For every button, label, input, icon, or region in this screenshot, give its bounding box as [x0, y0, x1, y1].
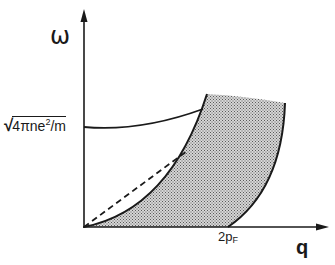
particle-hole-continuum-region: [84, 94, 285, 227]
y-axis-label: ω: [50, 24, 70, 48]
fermi-main: 2p: [218, 229, 232, 244]
plasma-frequency-label: √4πne2/m: [4, 117, 66, 134]
x-axis-label: q: [296, 237, 308, 257]
radicand-pre: 4πne: [12, 118, 45, 134]
y-axis-arrow-icon: [81, 9, 88, 22]
plasma-radicand: 4πne2/m: [12, 116, 66, 134]
fermi-sub: F: [232, 235, 238, 245]
fermi-momentum-label: 2pF: [218, 230, 238, 245]
radicand-post: /m: [50, 118, 66, 134]
x-axis-arrow-icon: [316, 224, 329, 231]
plasmon-dispersion-curve: [84, 109, 203, 128]
diagram-canvas: ω q 2pF √4πne2/m: [0, 0, 335, 265]
